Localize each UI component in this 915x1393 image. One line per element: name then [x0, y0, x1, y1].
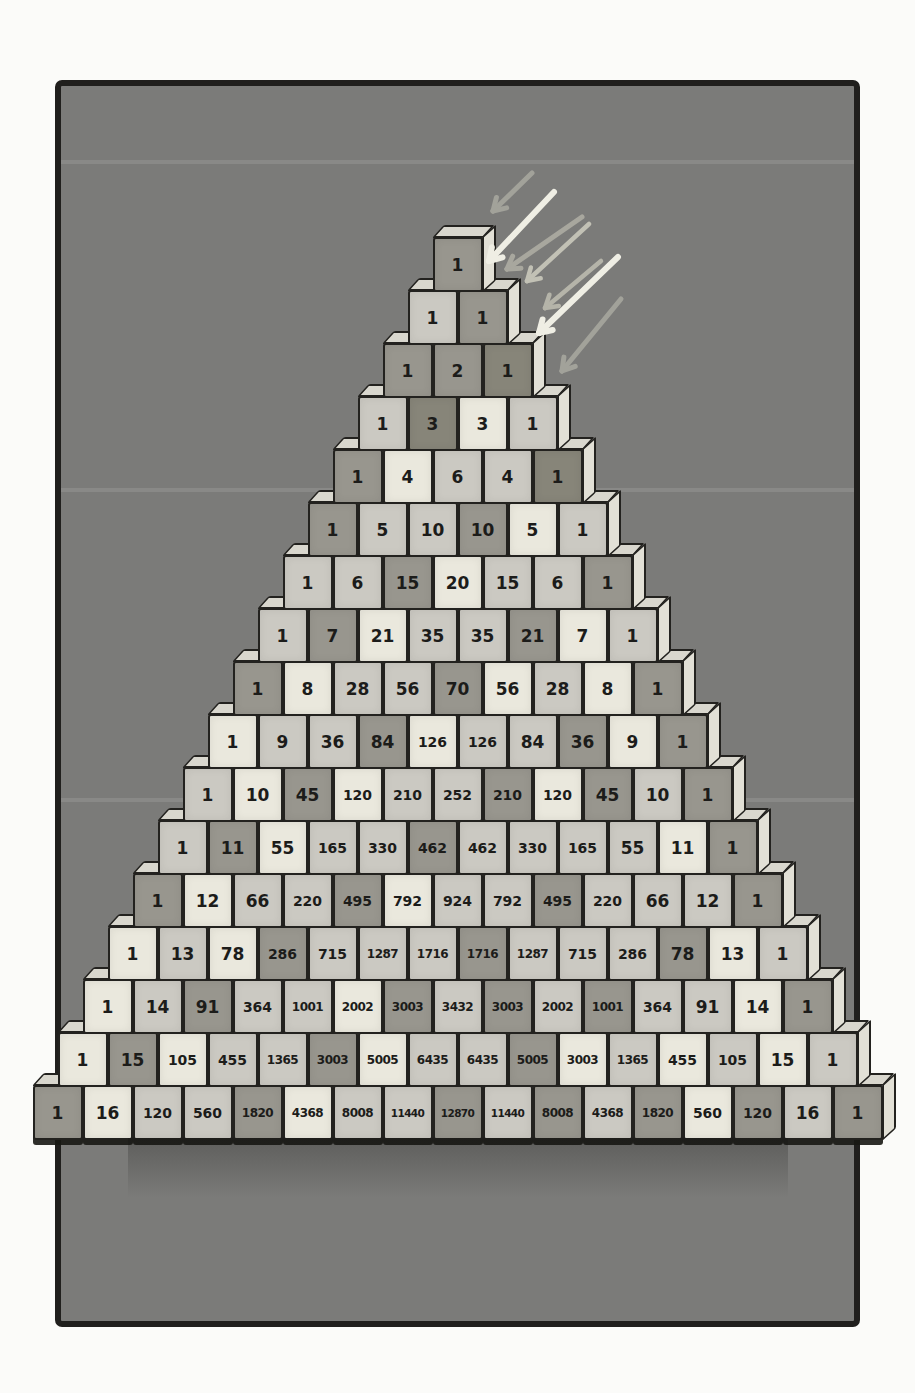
block: 10 [233, 767, 283, 822]
block: 165 [558, 820, 608, 875]
block: 7 [558, 608, 608, 663]
block: 55 [258, 820, 308, 875]
block: 3003 [383, 979, 433, 1034]
pyramid-row-2: 121 [383, 343, 533, 398]
block: 1001 [583, 979, 633, 1034]
pascal-pyramid: 1111211331146411510105116152015611721353… [33, 237, 883, 1140]
block: 210 [383, 767, 433, 822]
block: 11 [658, 820, 708, 875]
block: 2002 [333, 979, 383, 1034]
block: 1 [758, 926, 808, 981]
block: 1 [333, 449, 383, 504]
pyramid-row-8: 18285670562881 [233, 661, 683, 716]
block: 220 [283, 873, 333, 928]
block: 126 [408, 714, 458, 769]
block: 91 [683, 979, 733, 1034]
block: 1 [558, 502, 608, 557]
block: 1365 [258, 1032, 308, 1087]
block: 1 [183, 767, 233, 822]
block: 8008 [533, 1085, 583, 1140]
pyramid-row-3: 1331 [358, 396, 558, 451]
pyramid-row-12: 1126622049579292479249522066121 [133, 873, 783, 928]
block: 4368 [583, 1085, 633, 1140]
block: 8 [283, 661, 333, 716]
block: 14 [733, 979, 783, 1034]
block: 6 [533, 555, 583, 610]
block: 21 [508, 608, 558, 663]
block: 20 [433, 555, 483, 610]
block: 4368 [283, 1085, 333, 1140]
block: 1716 [408, 926, 458, 981]
block: 1 [133, 873, 183, 928]
pyramid-row-0: 1 [433, 237, 483, 292]
block: 210 [483, 767, 533, 822]
block: 3003 [308, 1032, 358, 1087]
block: 66 [233, 873, 283, 928]
block: 78 [658, 926, 708, 981]
block: 10 [408, 502, 458, 557]
block: 495 [533, 873, 583, 928]
block: 1 [83, 979, 133, 1034]
block: 715 [558, 926, 608, 981]
pyramid-base-shadow [128, 1138, 788, 1208]
block: 1820 [633, 1085, 683, 1140]
block: 1287 [358, 926, 408, 981]
block: 10 [458, 502, 508, 557]
block: 84 [508, 714, 558, 769]
block: 35 [408, 608, 458, 663]
pyramid-row-10: 1104512021025221012045101 [183, 767, 733, 822]
block: 330 [358, 820, 408, 875]
block: 1 [608, 608, 658, 663]
block: 56 [383, 661, 433, 716]
block: 1 [583, 555, 633, 610]
pyramid-row-14: 1149136410012002300334323003200210013649… [83, 979, 833, 1034]
pyramid-row-9: 193684126126843691 [208, 714, 708, 769]
block: 3003 [483, 979, 533, 1034]
block: 924 [433, 873, 483, 928]
pyramid-row-6: 1615201561 [283, 555, 633, 610]
block: 16 [83, 1085, 133, 1140]
block: 66 [633, 873, 683, 928]
block: 120 [533, 767, 583, 822]
block: 495 [333, 873, 383, 928]
block: 3432 [433, 979, 483, 1034]
block: 120 [733, 1085, 783, 1140]
block: 12870 [433, 1085, 483, 1140]
block: 8 [583, 661, 633, 716]
block: 165 [308, 820, 358, 875]
block: 1 [458, 290, 508, 345]
block: 3003 [558, 1032, 608, 1087]
block: 9 [608, 714, 658, 769]
block: 220 [583, 873, 633, 928]
block: 4 [383, 449, 433, 504]
block: 455 [208, 1032, 258, 1087]
block: 70 [433, 661, 483, 716]
block: 1 [383, 343, 433, 398]
block: 15 [108, 1032, 158, 1087]
block: 15 [383, 555, 433, 610]
block: 28 [533, 661, 583, 716]
block: 364 [233, 979, 283, 1034]
block: 9 [258, 714, 308, 769]
block: 330 [508, 820, 558, 875]
block: 12 [683, 873, 733, 928]
block: 56 [483, 661, 533, 716]
block: 1 [108, 926, 158, 981]
block: 16 [783, 1085, 833, 1140]
block: 13 [708, 926, 758, 981]
block: 6435 [458, 1032, 508, 1087]
block: 55 [608, 820, 658, 875]
block: 126 [458, 714, 508, 769]
block: 15 [483, 555, 533, 610]
pyramid-row-16: 1161205601820436880081144012870114408008… [33, 1085, 883, 1140]
block: 1 [783, 979, 833, 1034]
pyramid-row-5: 15101051 [308, 502, 608, 557]
block: 120 [333, 767, 383, 822]
block: 91 [183, 979, 233, 1034]
block: 1 [733, 873, 783, 928]
block: 560 [683, 1085, 733, 1140]
block: 560 [183, 1085, 233, 1140]
block: 1 [433, 237, 483, 292]
block: 462 [408, 820, 458, 875]
block: 1 [708, 820, 758, 875]
